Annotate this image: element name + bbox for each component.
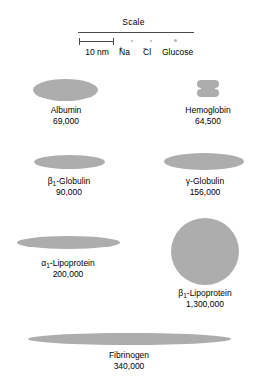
beta1-lipoprotein-shape [171, 218, 239, 285]
scale-horizontal-rule [78, 32, 194, 33]
fibrinogen-mass: 340,000 [79, 361, 179, 372]
beta1-lipoprotein-mass: 1,300,000 [155, 299, 255, 310]
beta1-globulin-mass: 90,000 [19, 187, 119, 198]
beta1-lipoprotein-name: β1-Lipoprotein [155, 288, 255, 299]
albumin-name: Albumin [16, 105, 116, 116]
fibrinogen-shape [28, 333, 231, 345]
sodium-label: Na+ [119, 47, 123, 57]
fibrinogen-name: Fibrinogen [79, 350, 179, 361]
alpha1-lipoprotein-name: α1-Lipoprotein [18, 258, 118, 269]
glucose-label: Glucose [162, 47, 193, 57]
glucose-dot [174, 39, 177, 42]
beta1-lipoprotein-caption: β1-Lipoprotein 1,300,000 [155, 288, 255, 310]
scale-title: Scale [0, 17, 267, 27]
beta1-globulin-subscript: 1 [53, 180, 57, 187]
scale-bar-label: 10 nm [79, 47, 115, 57]
chloride-ion-dot [150, 40, 152, 42]
alpha1-lipoprotein-shape [17, 236, 120, 249]
hemoglobin-caption: Hemoglobin 64,500 [158, 105, 258, 127]
albumin-mass: 69,000 [16, 116, 116, 127]
plasma-protein-size-figure: Scale 10 nm Na+ Cl− Glucose Albumin 69,0… [0, 0, 267, 376]
chloride-label: Cl− [143, 47, 147, 57]
gamma-globulin-shape [164, 153, 244, 170]
alpha1-lipoprotein-caption: α1-Lipoprotein 200,000 [18, 258, 118, 280]
albumin-caption: Albumin 69,000 [16, 105, 116, 127]
gamma-globulin-name: γ-Globulin [155, 176, 255, 187]
alpha1-lipoprotein-subscript: 1 [46, 262, 50, 269]
beta1-lipoprotein-subscript: 1 [183, 292, 187, 299]
scale-label-row: 10 nm Na+ Cl− Glucose [0, 47, 267, 59]
beta1-globulin-name: β1-Globulin [19, 176, 119, 187]
hemoglobin-mass: 64,500 [158, 116, 258, 127]
fibrinogen-caption: Fibrinogen 340,000 [79, 350, 179, 372]
hemoglobin-shape [197, 80, 219, 97]
gamma-globulin-caption: γ-Globulin 156,000 [155, 176, 255, 198]
alpha1-lipoprotein-mass: 200,000 [18, 269, 118, 280]
beta1-globulin-caption: β1-Globulin 90,000 [19, 176, 119, 198]
hemoglobin-name: Hemoglobin [158, 105, 258, 116]
hemoglobin-lobe-bottom [197, 89, 219, 97]
albumin-shape [33, 79, 98, 101]
beta1-globulin-shape [34, 155, 105, 169]
scale-bar-10nm [79, 41, 114, 42]
gamma-globulin-mass: 156,000 [155, 187, 255, 198]
sodium-ion-dot [131, 40, 133, 42]
